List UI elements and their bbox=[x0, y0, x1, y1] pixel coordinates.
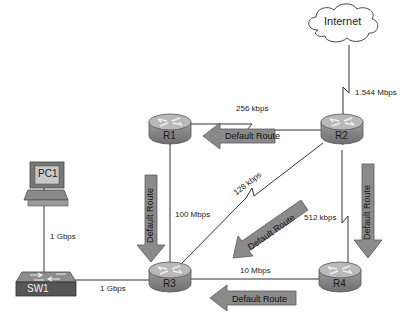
router-r3-label: R3 bbox=[163, 278, 176, 289]
link-r1-r3-speed: 100 Mbps bbox=[175, 210, 210, 219]
switch-sw1-label: SW1 bbox=[27, 283, 49, 294]
router-r1-label: R1 bbox=[163, 130, 176, 141]
default-route-label-r1-r3: Default Route bbox=[145, 188, 155, 243]
internet-label: Internet bbox=[324, 15, 361, 27]
link-sw1-r3-speed: 1 Gbps bbox=[100, 284, 126, 293]
link-pc1-sw1-speed: 1 Gbps bbox=[50, 232, 76, 241]
link-internet-r2-speed: 1.544 Mbps bbox=[355, 88, 397, 97]
default-route-label-r2-r4: Default Route bbox=[362, 185, 372, 240]
default-route-label-r2-r1: Default Route bbox=[225, 131, 280, 141]
pc1-label: PC1 bbox=[38, 168, 57, 179]
default-route-label-r4-r3: Default Route bbox=[232, 294, 287, 304]
link-r1-r2-speed: 256 kbps bbox=[236, 104, 268, 113]
link-r2-r4-speed: 512 kbps bbox=[304, 213, 336, 222]
diagram-lines bbox=[0, 0, 405, 325]
network-diagram: Internet R1 R2 R3 R4 PC1 SW1 1.544 Mbps … bbox=[0, 0, 405, 325]
router-r2-label: R2 bbox=[335, 130, 348, 141]
link-r2-r4 bbox=[342, 150, 348, 273]
router-r4-label: R4 bbox=[333, 278, 346, 289]
link-r3-r4-speed: 10 Mbps bbox=[240, 266, 271, 275]
